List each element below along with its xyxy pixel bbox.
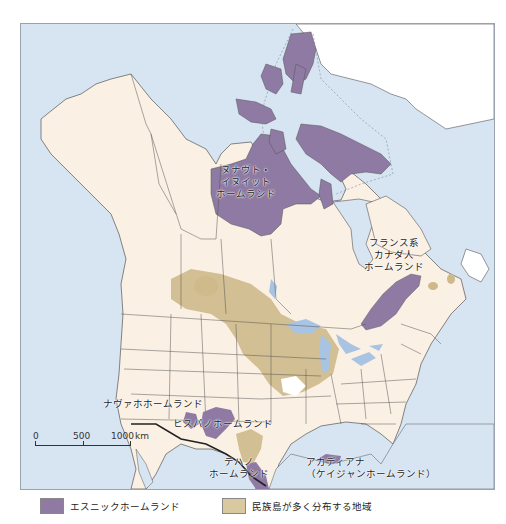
label-navajo-homeland: ナヴァホホームランド <box>103 398 203 410</box>
label-tejano-homeland: テハノ ホームランド <box>209 456 269 480</box>
label-hispano-homeland: ヒスパノホームランド <box>173 418 273 430</box>
greenland <box>296 24 494 129</box>
scale-bar: 0 500 1000 km <box>33 431 133 455</box>
label-acadiana-homeland: アカディアナ （ケイジャンホームランド） <box>306 456 436 480</box>
north-america-ethnic-map: ヌナヴト・ イヌイット ホームランド フランス系 カナダ人 ホームランド ナヴァ… <box>20 23 495 490</box>
scale-tick-500: 500 <box>73 431 90 441</box>
scale-tick-1000: 1000 <box>111 431 134 441</box>
legend-swatch-tan <box>222 498 246 514</box>
legend-swatch-purple <box>40 498 64 514</box>
legend-item-ethnic-islands: 民族島が多く分布する地域 <box>222 498 372 514</box>
scale-tick-0: 0 <box>33 431 39 441</box>
label-nunavut-inuit-homeland: ヌナヴト・ イヌイット ホームランド <box>216 164 276 200</box>
scale-unit: km <box>135 431 149 441</box>
map-legend: エスニックホームランド 民族島が多く分布する地域 <box>40 496 406 516</box>
newfoundland <box>461 249 489 282</box>
legend-item-ethnic-homeland: エスニックホームランド <box>40 498 180 514</box>
label-french-canadian-homeland: フランス系 カナダ人 ホームランド <box>364 237 424 273</box>
